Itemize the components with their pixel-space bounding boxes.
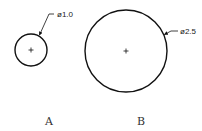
diagram-canvas: ø1.0 A ø2.5 B bbox=[0, 0, 202, 131]
dimension-b: ø2.5 bbox=[180, 27, 197, 36]
circle-a-group: ø1.0 A bbox=[15, 10, 74, 128]
leader-b bbox=[165, 31, 179, 35]
dimension-a: ø1.0 bbox=[57, 10, 74, 19]
label-b: B bbox=[137, 115, 145, 128]
circle-b-group: ø2.5 B bbox=[85, 10, 197, 128]
center-mark-b bbox=[124, 49, 129, 54]
label-a: A bbox=[44, 115, 54, 128]
center-mark-a bbox=[29, 48, 34, 53]
leader-a bbox=[40, 14, 55, 35]
